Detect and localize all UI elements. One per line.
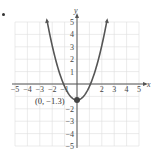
y-tick-label: 5: [70, 18, 74, 27]
y-tick-label: 2: [70, 55, 74, 64]
x-tick-label: −3: [36, 85, 45, 94]
x-tick-label: −4: [23, 85, 32, 94]
axes: [12, 13, 148, 148]
x-tick-label: −5: [11, 85, 20, 94]
y-tick-label: −4: [65, 130, 74, 139]
x-tick-label: 2: [100, 85, 104, 94]
x-tick-label: −2: [48, 85, 57, 94]
vertex-point: [74, 97, 80, 103]
y-tick-label: 3: [70, 43, 74, 52]
y-tick-label: −2: [65, 105, 74, 114]
x-tick-label: 3: [112, 85, 116, 94]
vertex-label: (0, −1.3): [35, 96, 65, 106]
y-axis-label: y: [73, 6, 78, 15]
parabola-chart: −5−4−3−2−1234554321−2−3−4−5 (0, −1.3) x …: [0, 0, 156, 156]
x-tick-label: 5: [137, 85, 141, 94]
left-arrow-icon: [45, 18, 49, 23]
x-tick-label: 4: [125, 85, 129, 94]
y-tick-label: 1: [70, 68, 74, 77]
y-tick-label: −3: [65, 117, 74, 126]
y-tick-label: 4: [70, 30, 74, 39]
y-tick-label: −5: [65, 142, 74, 151]
x-axis-label: x: [146, 80, 151, 89]
right-arrow-icon: [105, 18, 109, 23]
